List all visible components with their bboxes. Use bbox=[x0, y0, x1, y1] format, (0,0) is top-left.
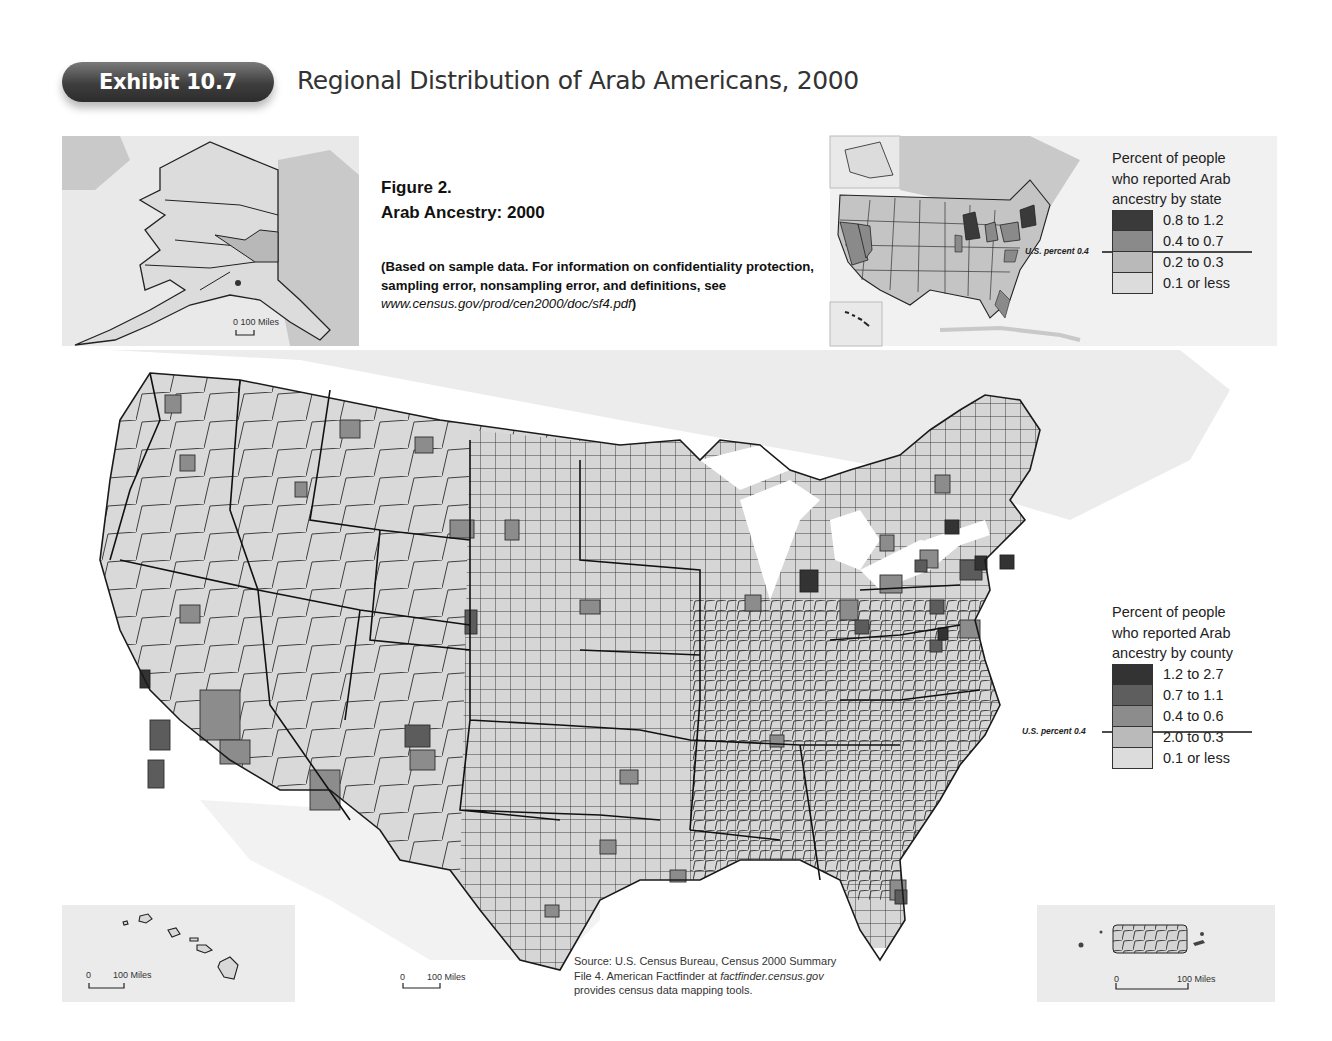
scale-zero: 0 bbox=[233, 317, 238, 327]
county-legend-label: 0.1 or less bbox=[1163, 750, 1230, 766]
alaska-inset bbox=[62, 136, 359, 346]
figure-title: Arab Ancestry: 2000 bbox=[381, 200, 545, 225]
scale-zero: 0 bbox=[1114, 974, 1119, 984]
source-line-2: File 4. American Factfinder at factfinde… bbox=[574, 969, 836, 984]
county-legend-item: 1.2 to 2.7 bbox=[1112, 664, 1233, 685]
state-legend-item: 0.1 or less bbox=[1112, 273, 1231, 294]
scale-zero: 0 bbox=[400, 972, 405, 982]
state-legend: Percent of people who reported Arab ance… bbox=[1112, 148, 1231, 294]
state-legend-label: 0.2 to 0.3 bbox=[1163, 254, 1223, 270]
county-legend-label: 0.7 to 1.1 bbox=[1163, 687, 1223, 703]
figure-note: (Based on sample data. For information o… bbox=[381, 258, 831, 314]
county-legend-item: 0.4 to 0.6 bbox=[1112, 706, 1233, 727]
state-legend-item: 0.2 to 0.3 bbox=[1112, 252, 1231, 273]
legend-swatch bbox=[1112, 727, 1153, 748]
county-legend-item: 0.7 to 1.1 bbox=[1112, 685, 1233, 706]
state-legend-title-2: who reported Arab bbox=[1112, 169, 1231, 190]
puerto-rico-scale-label: 0100 Miles bbox=[1114, 974, 1216, 984]
legend-swatch bbox=[1112, 706, 1153, 727]
state-legend-item: 0.4 to 0.7 bbox=[1112, 231, 1231, 252]
state-legend-title-1: Percent of people bbox=[1112, 148, 1231, 169]
hawaii-scale-label: 0100 Miles bbox=[86, 970, 152, 980]
figure-note-text: (Based on sample data. For information o… bbox=[381, 259, 814, 293]
figure-heading: Figure 2. Arab Ancestry: 2000 bbox=[381, 175, 545, 225]
legend-swatch bbox=[1112, 252, 1153, 273]
county-legend-label: 0.4 to 0.6 bbox=[1163, 708, 1223, 724]
figure-note-url[interactable]: www.census.gov/prod/cen2000/doc/sf4.pdf bbox=[381, 296, 632, 311]
scale-miles: 100 Miles bbox=[1177, 974, 1216, 984]
conus-scale-label: 0100 Miles bbox=[400, 972, 466, 982]
source-line-3: provides census data mapping tools. bbox=[574, 983, 836, 998]
county-legend-label: 1.2 to 2.7 bbox=[1163, 666, 1223, 682]
legend-swatch bbox=[1112, 210, 1153, 231]
scale-zero: 0 bbox=[86, 970, 91, 980]
legend-swatch bbox=[1112, 273, 1153, 294]
source-note: Source: U.S. Census Bureau, Census 2000 … bbox=[574, 954, 840, 998]
state-legend-label: 0.1 or less bbox=[1163, 275, 1230, 291]
legend-swatch bbox=[1112, 231, 1153, 252]
puerto-rico-inset bbox=[1037, 905, 1275, 1002]
figure-number: Figure 2. bbox=[381, 175, 545, 200]
alaska-scale-label: 0 100 Miles bbox=[233, 317, 279, 327]
legend-swatch bbox=[1112, 664, 1153, 685]
scale-miles: 100 Miles bbox=[241, 317, 280, 327]
county-legend-item: 2.0 to 0.3 bbox=[1112, 727, 1233, 748]
state-legend-item: 0.8 to 1.2 bbox=[1112, 210, 1231, 231]
county-us-percent-label: U.S. percent 0.4 bbox=[1022, 726, 1086, 736]
legend-swatch bbox=[1112, 748, 1153, 769]
county-legend-item: 0.1 or less bbox=[1112, 748, 1233, 769]
legend-swatch bbox=[1112, 685, 1153, 706]
source-line-1: Source: U.S. Census Bureau, Census 2000 … bbox=[574, 954, 836, 969]
state-legend-label: 0.8 to 1.2 bbox=[1163, 212, 1223, 228]
state-legend-label: 0.4 to 0.7 bbox=[1163, 233, 1223, 249]
figure-note-suffix: ) bbox=[632, 296, 636, 311]
scale-miles: 100 Miles bbox=[113, 970, 152, 980]
county-legend-title-2: who reported Arab bbox=[1112, 623, 1233, 644]
county-legend-title-3: ancestry by county bbox=[1112, 643, 1233, 664]
county-legend-title-1: Percent of people bbox=[1112, 602, 1233, 623]
county-legend-label: 2.0 to 0.3 bbox=[1163, 729, 1223, 745]
source-line-2-text: File 4. American Factfinder at bbox=[574, 970, 720, 982]
scale-miles: 100 Miles bbox=[427, 972, 466, 982]
state-legend-title-3: ancestry by state bbox=[1112, 189, 1231, 210]
state-us-percent-label: U.S. percent 0.4 bbox=[1025, 246, 1089, 256]
county-legend: Percent of people who reported Arab ance… bbox=[1112, 602, 1233, 769]
source-url[interactable]: factfinder.census.gov bbox=[720, 970, 824, 982]
